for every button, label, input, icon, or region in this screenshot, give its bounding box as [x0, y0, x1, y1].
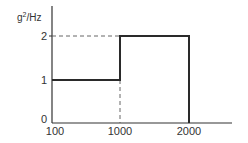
y-axis-label-unit: /Hz: [26, 12, 41, 23]
y-tick-label-2: 2: [33, 31, 47, 42]
x-tick-label-100: 100: [40, 126, 70, 137]
psd-step-line: [52, 36, 189, 123]
y-tick-label-1: 1: [33, 75, 47, 86]
y-tick-label-0: 0: [33, 114, 47, 125]
y-axis-label: g2/Hz: [17, 11, 41, 23]
x-tick-label-1000: 1000: [105, 126, 135, 137]
x-tick-label-2000: 2000: [174, 126, 204, 137]
